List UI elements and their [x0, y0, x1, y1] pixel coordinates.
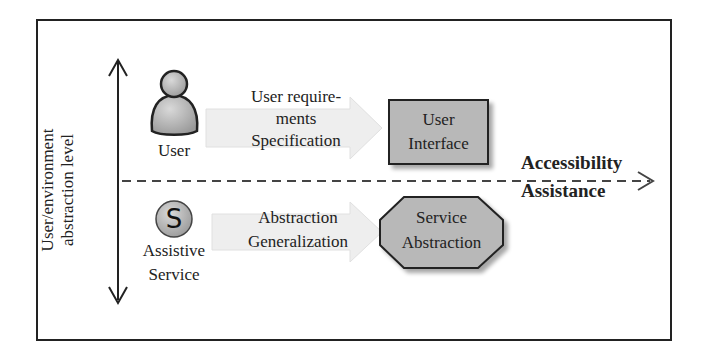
accessibility-label: Accessibility: [521, 152, 661, 173]
axis-label-line1: User/environment: [38, 70, 58, 310]
service-abstraction-line1: Service: [380, 205, 503, 230]
assistive-service-label: Assistive Service: [129, 239, 219, 287]
abstraction-generalization-label: Abstraction Generalization: [228, 206, 368, 254]
assistance-label: Assistance: [521, 180, 661, 201]
assistive-service-line1: Assistive: [129, 239, 219, 263]
user-person-icon: [152, 71, 198, 135]
user-interface-line1: User: [389, 108, 488, 132]
lower-arrow-line2: Generalization: [228, 230, 368, 254]
service-abstraction-line2: Abstraction: [380, 230, 503, 255]
upper-arrow-line1: User require-: [226, 86, 366, 108]
service-icon-letter: S: [156, 204, 192, 234]
user-requirements-specification-label: User require- ments Specification: [226, 86, 366, 152]
upper-arrow-line2: ments: [226, 108, 366, 130]
user-interface-line2: Interface: [389, 132, 488, 156]
upper-arrow-line3: Specification: [226, 130, 366, 152]
service-abstraction-label: Service Abstraction: [380, 205, 503, 255]
assistive-service-line2: Service: [129, 263, 219, 287]
lower-arrow-line1: Abstraction: [228, 206, 368, 230]
axis-label: User/environment abstraction level: [38, 70, 77, 310]
diagram-canvas: [0, 0, 701, 358]
user-interface-label: User Interface: [389, 108, 488, 156]
user-label: User: [144, 141, 204, 160]
axis-label-line2: abstraction level: [58, 70, 78, 310]
